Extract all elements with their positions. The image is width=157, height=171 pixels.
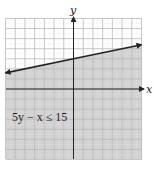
inequality-graph: y x 5y − x ≤ 15 — [0, 0, 157, 171]
x-axis-label: x — [146, 83, 153, 96]
inequality-label: 5y − x ≤ 15 — [12, 110, 67, 124]
y-axis-label: y — [69, 4, 77, 17]
